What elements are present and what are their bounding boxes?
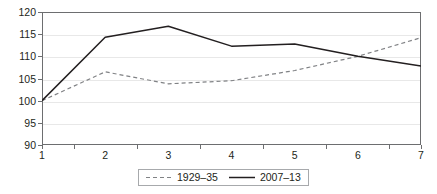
- line-chart: 9095100105110115120 1234567 1929–35 2007…: [0, 0, 437, 194]
- x-axis-tick-mark: [137, 145, 138, 149]
- x-axis-tick-mark: [263, 145, 264, 149]
- series-line-1929-35: [42, 38, 421, 101]
- x-axis-tick-mark: [326, 145, 327, 149]
- solid-line-swatch: [229, 174, 255, 181]
- y-axis-tick-label: 95: [2, 118, 36, 128]
- legend-item-2007-13[interactable]: 2007–13: [229, 172, 301, 183]
- y-axis-tick-label: 110: [2, 51, 36, 61]
- chart-legend: 1929–35 2007–13: [138, 169, 309, 186]
- y-axis-tick-label: 100: [2, 96, 36, 106]
- series-layer: [42, 12, 421, 145]
- legend-label-1929-35: 1929–35: [177, 172, 218, 183]
- legend-item-1929-35[interactable]: 1929–35: [146, 172, 218, 183]
- x-axis-tick-label: 1: [39, 150, 45, 161]
- x-axis-tick-label: 6: [355, 150, 361, 161]
- y-axis-tick-label: 90: [2, 140, 36, 150]
- dashed-line-swatch: [146, 174, 172, 181]
- y-axis-tick-label: 120: [2, 7, 36, 17]
- x-axis-tick-label: 2: [102, 150, 108, 161]
- x-axis-tick-label: 7: [418, 150, 424, 161]
- x-axis-tick-mark: [74, 145, 75, 149]
- x-axis: 1234567: [42, 150, 421, 166]
- x-axis-tick-mark: [200, 145, 201, 149]
- x-axis-tick-mark: [389, 145, 390, 149]
- x-axis-tick-mark: [42, 145, 43, 149]
- y-axis-tick-label: 105: [2, 74, 36, 84]
- series-line-2007-13: [42, 26, 421, 100]
- y-axis-tick-label: 115: [2, 29, 36, 39]
- x-axis-tick-label: 5: [292, 150, 298, 161]
- x-axis-tick-label: 3: [165, 150, 171, 161]
- legend-label-2007-13: 2007–13: [260, 172, 301, 183]
- x-axis-tick-label: 4: [229, 150, 235, 161]
- x-axis-tick-mark: [421, 145, 422, 149]
